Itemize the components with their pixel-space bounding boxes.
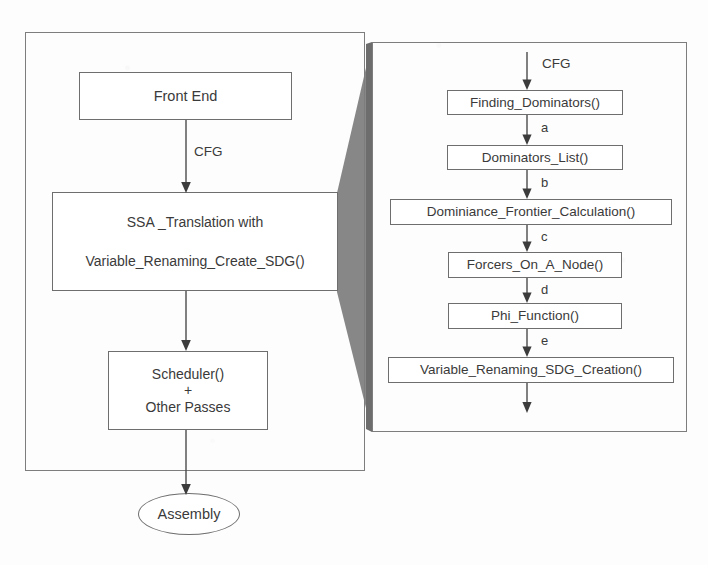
edge-label-cfg-left: CFG [194,144,223,159]
node-front-end-label: Front End [154,88,218,105]
node-dominators-list-label: Dominators_List() [482,150,589,166]
node-scheduler-label-line2: + [184,382,192,398]
edge-label-e: e [541,333,548,348]
edge-label-b: b [541,175,548,190]
node-front-end[interactable]: Front End [79,72,292,120]
node-assembly-label: Assembly [158,506,221,522]
node-ssa-translation-label-line2: Variable_Renaming_Create_SDG() [85,253,304,269]
node-forcers-on-a-node-label: Forcers_On_A_Node() [467,257,604,273]
node-dominiance-frontier-calculation[interactable]: Dominiance_Frontier_Calculation() [390,199,672,225]
node-phi-function-label: Phi_Function() [491,308,579,324]
diagram-canvas: Front End CFG SSA _Translation with Vari… [0,0,708,565]
node-variable-renaming-sdg-creation-label: Variable_Renaming_SDG_Creation() [420,362,642,378]
node-variable-renaming-sdg-creation[interactable]: Variable_Renaming_SDG_Creation() [388,357,674,383]
node-ssa-translation[interactable]: SSA _Translation with Variable_Renaming_… [52,192,338,291]
node-finding-dominators[interactable]: Finding_Dominators() [447,90,623,115]
node-dominiance-frontier-calculation-label: Dominiance_Frontier_Calculation() [427,204,636,220]
node-assembly[interactable]: Assembly [138,493,240,535]
node-scheduler-label-line1: Scheduler() [152,366,224,382]
edge-label-c: c [541,229,548,244]
node-dominators-list[interactable]: Dominators_List() [447,145,623,170]
edge-label-a: a [541,120,548,135]
edge-label-cfg-right: CFG [542,56,571,71]
node-phi-function[interactable]: Phi_Function() [448,303,622,329]
edge-label-d: d [541,282,548,297]
node-finding-dominators-label: Finding_Dominators() [470,95,600,111]
node-scheduler[interactable]: Scheduler() + Other Passes [108,351,268,430]
node-forcers-on-a-node[interactable]: Forcers_On_A_Node() [448,252,622,278]
node-ssa-translation-label-line1: SSA _Translation with [127,214,263,230]
node-scheduler-label-line3: Other Passes [146,399,231,415]
